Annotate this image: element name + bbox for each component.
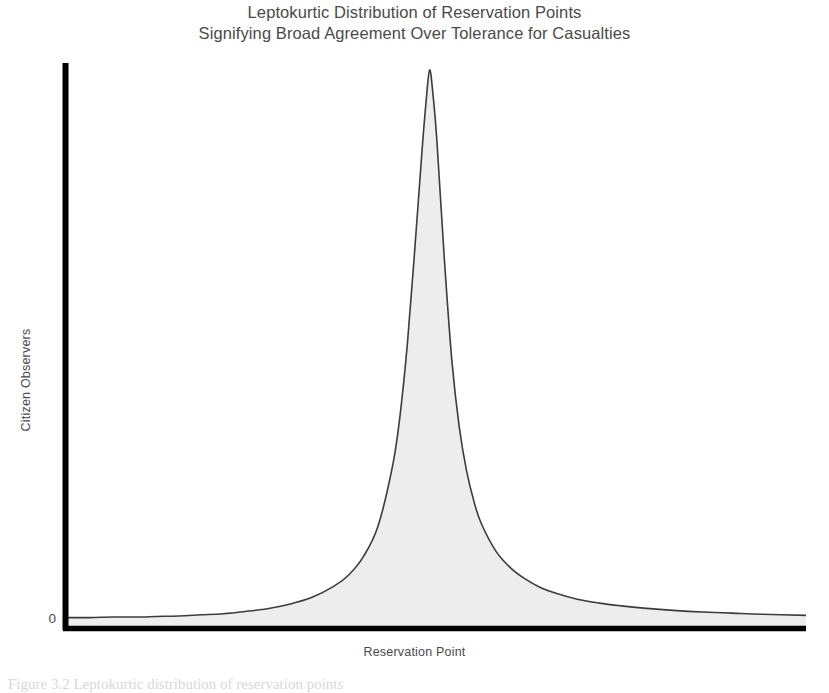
y-axis-label: Citizen Observers [13,290,39,470]
x-axis-label: Reservation Point [0,645,829,659]
y-axis-label-text: Citizen Observers [19,329,33,432]
figure-caption: Figure 3.2 Leptokurtic distribution of r… [8,676,628,693]
y-axis-tick-0: 0 [38,611,56,626]
